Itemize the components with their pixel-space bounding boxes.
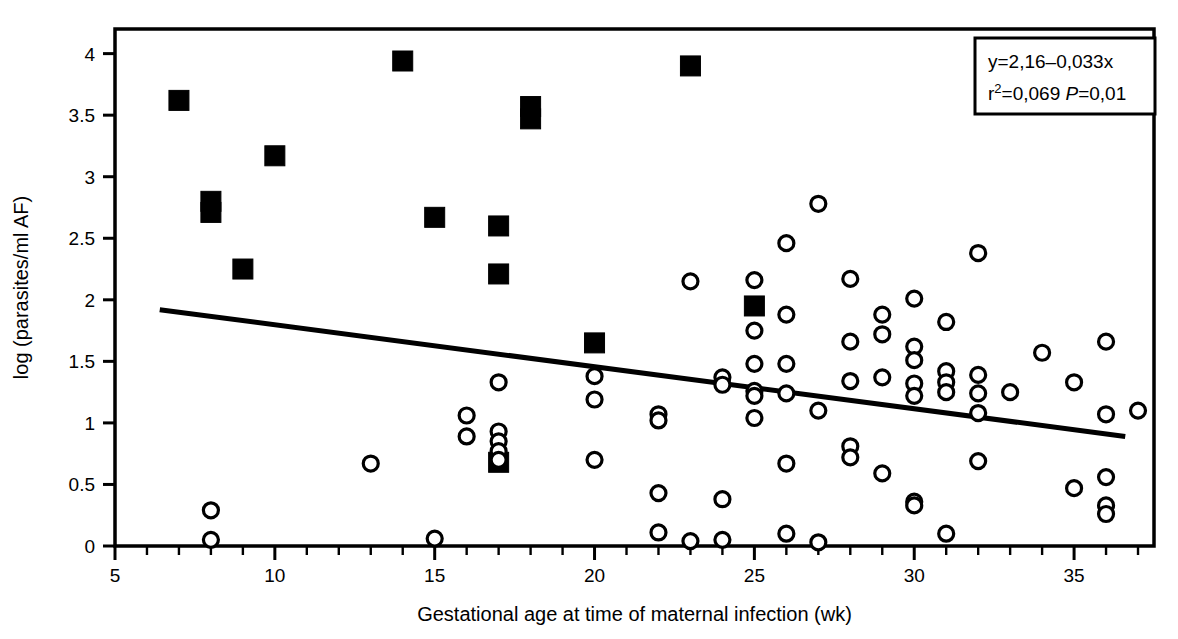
data-point-circle bbox=[907, 353, 922, 368]
data-point-square bbox=[680, 56, 700, 76]
data-point-circle bbox=[779, 526, 794, 541]
x-tick-label: 10 bbox=[264, 565, 285, 586]
data-point-circle bbox=[779, 356, 794, 371]
data-point-circle bbox=[747, 356, 762, 371]
data-point-circle bbox=[427, 531, 442, 546]
data-point-circle bbox=[1099, 407, 1114, 422]
data-point-circle bbox=[715, 377, 730, 392]
data-point-circle bbox=[1035, 345, 1050, 360]
data-point-circle bbox=[779, 456, 794, 471]
data-point-circle bbox=[907, 291, 922, 306]
data-point-circle bbox=[779, 386, 794, 401]
y-tick-label: 0 bbox=[84, 536, 95, 557]
x-axis-title: Gestational age at time of maternal infe… bbox=[417, 603, 852, 625]
data-point-circle bbox=[779, 236, 794, 251]
plot-canvas: 510152025303500.511.522.533.54Gestationa… bbox=[0, 0, 1178, 639]
data-point-circle bbox=[843, 374, 858, 389]
data-point-square bbox=[585, 333, 605, 353]
data-point-circle bbox=[1003, 385, 1018, 400]
data-point-circle bbox=[1099, 334, 1114, 349]
data-point-circle bbox=[811, 403, 826, 418]
y-axis-title: log (parasites/ml AF) bbox=[10, 196, 32, 379]
data-point-circle bbox=[971, 454, 986, 469]
x-tick-label: 30 bbox=[904, 565, 925, 586]
data-point-circle bbox=[491, 452, 506, 467]
data-point-circle bbox=[715, 492, 730, 507]
data-point-circle bbox=[811, 535, 826, 550]
x-tick-label: 5 bbox=[110, 565, 121, 586]
data-point-circle bbox=[971, 246, 986, 261]
x-tick-label: 20 bbox=[584, 565, 605, 586]
data-point-circle bbox=[1099, 506, 1114, 521]
data-point-circle bbox=[587, 369, 602, 384]
y-tick-label: 1.5 bbox=[69, 351, 95, 372]
data-point-circle bbox=[587, 452, 602, 467]
data-point-square bbox=[425, 207, 445, 227]
data-point-circle bbox=[971, 406, 986, 421]
data-point-circle bbox=[1067, 481, 1082, 496]
data-point-circle bbox=[747, 273, 762, 288]
data-point-circle bbox=[875, 327, 890, 342]
data-point-circle bbox=[491, 375, 506, 390]
data-point-square bbox=[169, 90, 189, 110]
data-point-circle bbox=[907, 388, 922, 403]
data-point-square bbox=[233, 259, 253, 279]
data-point-circle bbox=[459, 408, 474, 423]
data-point-circle bbox=[203, 503, 218, 518]
annotation-stats: r2=0,069 P=0,01 bbox=[988, 81, 1126, 105]
data-point-square bbox=[489, 216, 509, 236]
y-tick-label: 1 bbox=[84, 413, 95, 434]
data-point-circle bbox=[875, 466, 890, 481]
data-point-circle bbox=[843, 271, 858, 286]
y-tick-label: 2 bbox=[84, 290, 95, 311]
data-point-circle bbox=[747, 388, 762, 403]
data-point-circle bbox=[587, 392, 602, 407]
data-point-circle bbox=[1067, 375, 1082, 390]
data-point-circle bbox=[811, 196, 826, 211]
data-point-circle bbox=[459, 429, 474, 444]
data-point-circle bbox=[779, 307, 794, 322]
data-point-circle bbox=[843, 450, 858, 465]
data-point-circle bbox=[363, 456, 378, 471]
x-tick-label: 25 bbox=[744, 565, 765, 586]
data-point-square bbox=[393, 51, 413, 71]
y-tick-label: 0.5 bbox=[69, 474, 95, 495]
data-point-circle bbox=[747, 410, 762, 425]
data-point-circle bbox=[875, 370, 890, 385]
data-point-circle bbox=[1099, 470, 1114, 485]
data-point-circle bbox=[1131, 403, 1146, 418]
y-tick-label: 4 bbox=[84, 44, 95, 65]
data-point-circle bbox=[747, 323, 762, 338]
data-point-square bbox=[489, 264, 509, 284]
y-tick-label: 3.5 bbox=[69, 105, 95, 126]
data-point-circle bbox=[651, 525, 666, 540]
data-point-square bbox=[201, 202, 221, 222]
data-point-circle bbox=[939, 314, 954, 329]
data-point-circle bbox=[651, 413, 666, 428]
data-point-circle bbox=[971, 386, 986, 401]
data-point-circle bbox=[875, 307, 890, 322]
y-tick-label: 2.5 bbox=[69, 228, 95, 249]
scatter-plot-figure: 510152025303500.511.522.533.54Gestationa… bbox=[0, 0, 1178, 639]
data-point-circle bbox=[843, 334, 858, 349]
data-point-square bbox=[744, 296, 764, 316]
data-point-circle bbox=[683, 534, 698, 549]
x-tick-label: 35 bbox=[1064, 565, 1085, 586]
data-point-square bbox=[521, 109, 541, 129]
data-point-circle bbox=[939, 526, 954, 541]
data-point-circle bbox=[939, 385, 954, 400]
data-point-circle bbox=[907, 498, 922, 513]
data-point-circle bbox=[651, 486, 666, 501]
data-point-circle bbox=[715, 532, 730, 547]
annotation-equation: y=2,16–0,033x bbox=[988, 51, 1114, 72]
data-point-circle bbox=[683, 274, 698, 289]
data-point-circle bbox=[971, 367, 986, 382]
x-tick-label: 15 bbox=[424, 565, 445, 586]
data-point-square bbox=[265, 146, 285, 166]
data-point-circle bbox=[203, 532, 218, 547]
y-tick-label: 3 bbox=[84, 167, 95, 188]
